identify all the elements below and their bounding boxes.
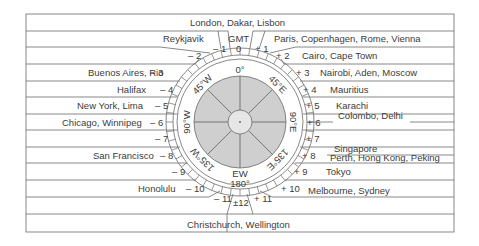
offset-p7: + 7: [306, 133, 319, 144]
offset-0: 0: [236, 43, 241, 54]
bearing-90w: 90°W: [181, 110, 192, 133]
offset-m9: – 9: [172, 166, 185, 177]
offset-m10: – 10: [186, 183, 205, 194]
offset-p11: + 11: [254, 193, 272, 204]
city-p9: Tokyo: [326, 166, 351, 177]
city-m10: Honolulu: [138, 183, 176, 194]
city-m4: Halifax: [117, 84, 146, 95]
offset-p10: + 10: [281, 183, 300, 194]
offset-m1: – 1: [213, 43, 226, 54]
city-p4: Mauritius: [330, 84, 369, 95]
offset-p2: + 2: [276, 50, 289, 61]
offset-m11: – 11: [214, 193, 232, 204]
city-p8: Perth, Hong Kong, Peking: [330, 152, 440, 163]
offset-p6: + 6: [307, 117, 320, 128]
city-m6: Chicago, Winnipeg: [62, 117, 142, 128]
offset-m2: – 2: [188, 50, 201, 61]
city-pm12: Christchurch, Wellington: [187, 219, 290, 230]
offset-p4: + 4: [303, 84, 316, 95]
offset-pm12: ±12: [233, 197, 249, 208]
city-p1: Paris, Copenhagen, Rome, Vienna: [274, 33, 421, 44]
city-m8: San Francisco: [93, 150, 154, 161]
offset-p3: + 3: [296, 67, 309, 78]
offset-m4: – 4: [160, 84, 173, 95]
offset-p5: + 5: [306, 100, 319, 111]
city-p10: Melbourne, Sydney: [308, 185, 390, 196]
offset-m3: – 3: [150, 67, 163, 78]
city-p2: Cairo, Cape Town: [302, 50, 377, 61]
city-p5-5: Colombo, Delhi: [338, 110, 403, 121]
bearing-90e: 90°E: [288, 112, 299, 133]
bearing-0: 0°: [235, 64, 244, 75]
city-m1: Reykjavik: [163, 33, 204, 44]
city-m5: New York, Lima: [77, 100, 143, 111]
city-gmt0: London, Dakar, Lisbon: [190, 17, 285, 28]
offset-p8: + 8: [302, 150, 315, 161]
offset-p9: + 9: [294, 166, 307, 177]
offset-m7: – 7: [155, 133, 168, 144]
offset-p1: + 1: [255, 43, 268, 54]
offset-m6: – 6: [150, 117, 163, 128]
city-p3: Nairobi, Aden, Moscow: [320, 67, 417, 78]
time-zone-diagram: 0° 45°E 90°E 135°E 45°W 90°W 135°W EW 18…: [0, 0, 479, 246]
offset-m8: – 8: [160, 150, 173, 161]
dial: 0° 45°E 90°E 135°E 45°W 90°W 135°W EW 18…: [166, 48, 314, 196]
bearing-180: 180°: [230, 178, 250, 189]
offset-m5: – 5: [155, 100, 168, 111]
